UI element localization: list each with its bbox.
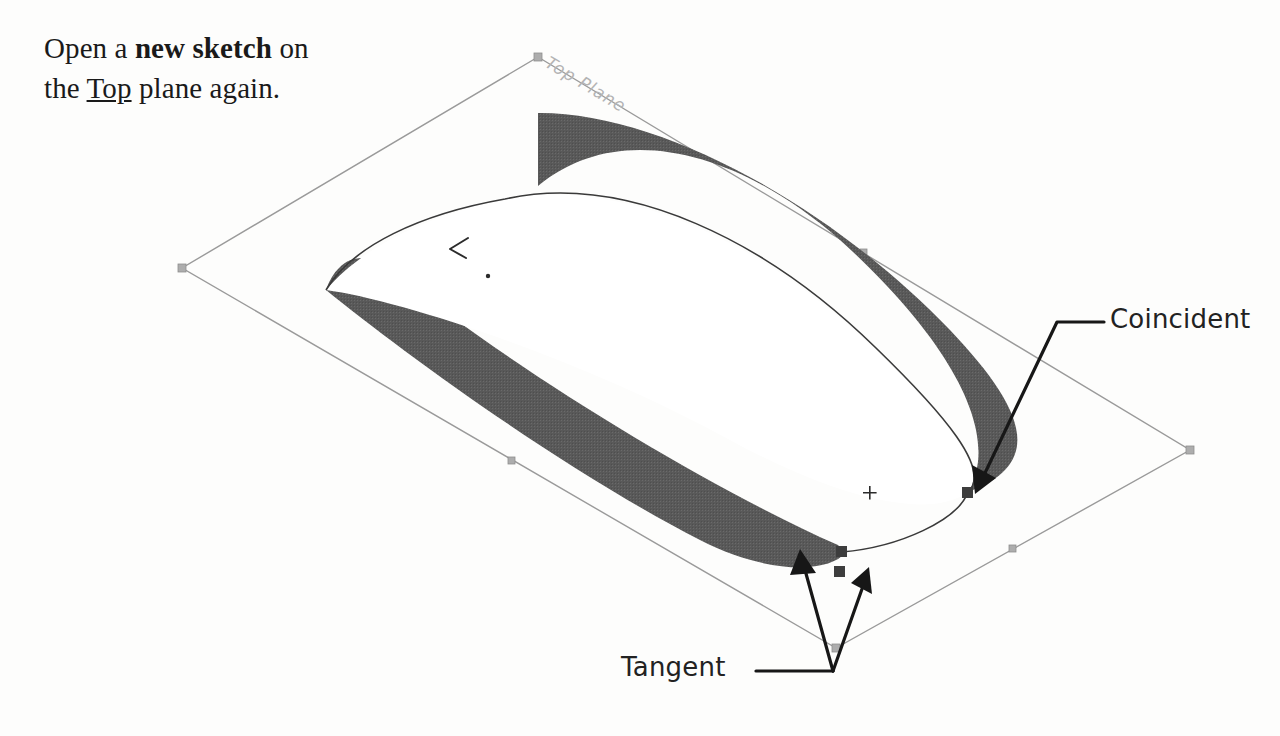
- plane-edge-grip-lower-right[interactable]: [1009, 545, 1016, 552]
- callout-label-coincident: Coincident: [1110, 304, 1250, 334]
- cad-viewport[interactable]: Top Plane: [0, 0, 1280, 736]
- callout-label-tangent: Tangent: [621, 652, 726, 682]
- tangent-leader: [756, 549, 872, 671]
- tangent-leader-branch-2: [833, 589, 862, 671]
- plane-corner-grip-left[interactable]: [178, 264, 186, 272]
- tangent-leader-branch-1: [805, 570, 833, 671]
- instruction-new-sketch: Open a new sketch onthe Top plane again.: [44, 28, 434, 108]
- illustration-page: Top Plane: [0, 0, 1280, 736]
- tangent-relation-glyph-2[interactable]: [834, 566, 845, 577]
- plane-edge-grip-lower-left[interactable]: [508, 457, 515, 464]
- plane-corner-grip-top[interactable]: [534, 53, 542, 61]
- tangent-relation-glyph-1[interactable]: [836, 546, 847, 557]
- origin-point-icon: [486, 274, 490, 278]
- coincident-relation-glyph[interactable]: [962, 487, 973, 498]
- plane-label: Top Plane: [542, 52, 630, 116]
- plane-corner-grip-right[interactable]: [1186, 446, 1194, 454]
